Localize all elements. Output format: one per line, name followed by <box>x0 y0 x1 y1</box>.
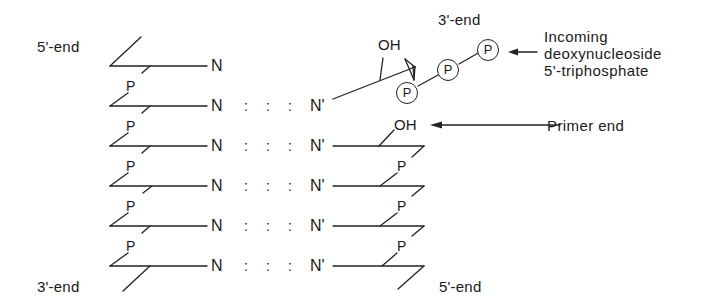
incoming-annotation-line1: Incoming <box>544 29 608 44</box>
pairing-symbol: : <box>288 259 292 273</box>
pairing-symbol: : <box>266 139 270 153</box>
template-phosphate: P <box>126 119 135 133</box>
primer-5prime-end-label: 5'-end <box>439 279 481 295</box>
template-base: N <box>211 138 223 154</box>
pairing-symbol: : <box>266 99 270 113</box>
primer-base: N' <box>310 98 325 114</box>
phosphate-circle-icon: P <box>477 39 499 61</box>
primer-base: N' <box>310 138 325 154</box>
primer-base: N' <box>310 258 325 274</box>
template-phosphate: P <box>126 79 135 93</box>
primer-base: N' <box>310 218 325 234</box>
pairing-symbol: : <box>244 99 248 113</box>
template-base: N <box>211 218 223 234</box>
incoming-annotation-line2: deoxynucleoside <box>544 46 662 61</box>
primer-phosphate: P <box>397 199 406 213</box>
incoming-hydroxyl-label: OH <box>378 37 401 53</box>
pairing-symbol: : <box>266 179 270 193</box>
template-3prime-end-label: 3'-end <box>37 279 79 295</box>
primer-base: N' <box>310 178 325 194</box>
pairing-symbol: : <box>288 179 292 193</box>
pairing-symbol: : <box>288 139 292 153</box>
incoming-annotation-line3: 5'-triphosphate <box>544 63 649 78</box>
template-base: N <box>211 98 223 114</box>
primer-phosphate: P <box>397 159 406 173</box>
template-phosphate: P <box>126 199 135 213</box>
template-base: N <box>211 58 223 74</box>
template-5prime-end-label: 5'-end <box>37 39 79 55</box>
primer-phosphate: P <box>397 239 406 253</box>
template-phosphate: P <box>126 239 135 253</box>
template-base: N <box>211 178 223 194</box>
pairing-symbol: : <box>266 219 270 233</box>
pairing-symbol: : <box>244 139 248 153</box>
template-base: N <box>211 258 223 274</box>
phosphate-circle-icon: P <box>437 59 459 81</box>
primer-hydroxyl-label: OH <box>394 117 417 133</box>
pairing-symbol: : <box>288 99 292 113</box>
phosphate-circle-icon: P <box>396 82 418 104</box>
pairing-symbol: : <box>244 219 248 233</box>
pairing-symbol: : <box>244 259 248 273</box>
pairing-symbol: : <box>266 259 270 273</box>
pairing-symbol: : <box>288 219 292 233</box>
primer-end-annotation: Primer end <box>547 118 624 133</box>
primer-3prime-end-label: 3'-end <box>438 12 480 28</box>
pairing-symbol: : <box>244 179 248 193</box>
template-phosphate: P <box>126 159 135 173</box>
